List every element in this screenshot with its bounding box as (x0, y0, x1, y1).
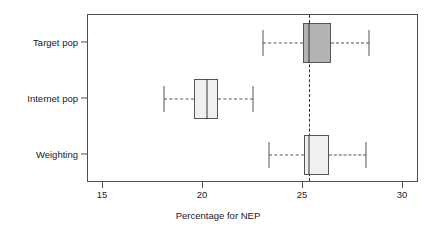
whisker-high-line (329, 155, 366, 156)
plot-area (88, 15, 417, 181)
x-axis-tick-label: 25 (297, 189, 308, 200)
plot-panel (87, 14, 418, 182)
boxplot-figure: Target popInternet popWeighting 15202530… (0, 0, 436, 234)
whisker-low-cap (269, 142, 270, 168)
whisker-low-line (269, 155, 304, 156)
boxplot-group (88, 15, 417, 181)
x-axis-tick-label: 15 (97, 189, 108, 200)
x-axis-tick-label: 30 (397, 189, 408, 200)
x-axis-tick (302, 182, 303, 188)
x-axis-tick (102, 182, 103, 188)
y-axis-label-target-pop: Target pop (33, 37, 78, 48)
y-axis-label-weighting: Weighting (36, 149, 78, 160)
x-axis-title: Percentage for NEP (0, 210, 436, 221)
whisker-high-cap (366, 142, 367, 168)
x-axis-tick (202, 182, 203, 188)
median-line (309, 135, 310, 175)
y-axis-label-internet-pop: Internet pop (27, 93, 78, 104)
x-axis-tick-label: 20 (197, 189, 208, 200)
x-axis-tick (402, 182, 403, 188)
